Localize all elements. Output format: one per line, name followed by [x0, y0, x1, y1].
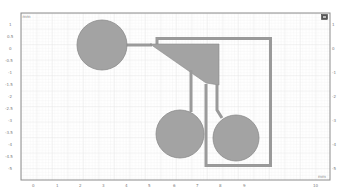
svg-text:0: 0: [32, 183, 35, 188]
svg-text:1: 1: [9, 22, 12, 27]
svg-text:8: 8: [219, 183, 222, 188]
svg-text:-4.5: -4.5: [5, 154, 13, 159]
svg-text:6: 6: [173, 183, 176, 188]
svg-text:-2: -2: [8, 94, 12, 99]
unit-label-bottom-right: mm: [318, 174, 326, 179]
unit-label-top-left: mm: [23, 14, 31, 19]
svg-text:-4: -4: [8, 142, 12, 147]
pad-bottom-right[interactable]: [213, 115, 259, 161]
pad-large[interactable]: [77, 20, 127, 70]
svg-text:0: 0: [9, 46, 12, 51]
svg-text:5: 5: [148, 183, 151, 188]
y-axis: 1 0.5 0 -0.5 -1 -1.5 -2 -2.5 -3 -3.5 -4 …: [5, 22, 14, 171]
svg-text:4: 4: [125, 183, 128, 188]
pad-bottom-left[interactable]: [156, 110, 204, 158]
svg-text:-5: -5: [332, 166, 336, 171]
svg-text:-3.5: -3.5: [5, 130, 13, 135]
svg-text:3: 3: [102, 183, 105, 188]
camera-icon[interactable]: [322, 15, 328, 20]
svg-text:-0.5: -0.5: [5, 58, 13, 63]
svg-text:-3: -3: [332, 118, 336, 123]
svg-text:-5: -5: [8, 166, 12, 171]
svg-text:-2.5: -2.5: [5, 106, 13, 111]
svg-text:1: 1: [56, 183, 59, 188]
svg-text:0: 0: [332, 46, 335, 51]
svg-text:-1: -1: [8, 70, 12, 75]
svg-text:-2: -2: [332, 94, 336, 99]
svg-text:0.5: 0.5: [7, 34, 14, 39]
svg-text:2: 2: [79, 183, 82, 188]
x-axis: 0 1 2 3 4 5 6 7 8 9 10: [32, 183, 319, 188]
svg-text:-4: -4: [332, 142, 336, 147]
svg-text:9: 9: [243, 183, 246, 188]
svg-text:7: 7: [196, 183, 199, 188]
svg-text:-3: -3: [8, 118, 12, 123]
svg-text:10: 10: [313, 183, 319, 188]
y-axis-right: 1 0 -1 -2 -3 -4 -5: [332, 22, 336, 171]
svg-text:-1.5: -1.5: [5, 82, 13, 87]
geometry-graphics-window[interactable]: mm mm 1 0.5 0 -0.5 -1 -1.5 -2 -2.5 -3 -3…: [0, 0, 345, 192]
svg-text:-1: -1: [332, 70, 336, 75]
svg-text:1: 1: [332, 22, 335, 27]
